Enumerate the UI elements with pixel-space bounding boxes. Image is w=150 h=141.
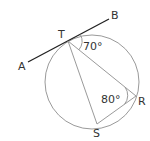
label-t: T bbox=[57, 28, 65, 41]
chord-ts bbox=[68, 41, 97, 124]
angle-label-70: 70° bbox=[83, 40, 103, 53]
label-r: R bbox=[138, 95, 146, 108]
angle-arc-trs bbox=[125, 87, 128, 104]
label-a: A bbox=[18, 60, 26, 73]
label-b: B bbox=[111, 9, 119, 22]
angle-label-80: 80° bbox=[101, 93, 121, 106]
circle-tangent-diagram: A B T R S 70° 80° bbox=[0, 0, 150, 141]
label-s: S bbox=[93, 127, 100, 140]
